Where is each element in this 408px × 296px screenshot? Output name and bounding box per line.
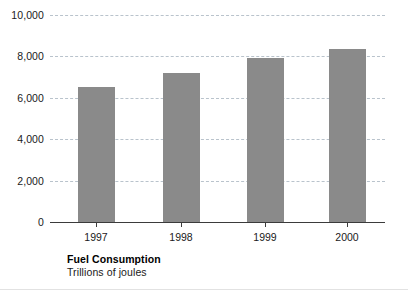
chart-title: Fuel Consumption [67, 253, 367, 266]
ytick-label-6000: 6,000 [0, 93, 44, 104]
xtick-1998 [181, 222, 182, 227]
xtick-label-1999: 1999 [235, 231, 295, 243]
bar-1998 [163, 73, 200, 222]
x-axis-line [50, 222, 385, 223]
xtick-label-1997: 1997 [66, 231, 126, 243]
bar-chart-figure: 10,000 8,000 6,000 4,000 2,000 0 1997 19… [0, 0, 408, 296]
bottom-divider [0, 289, 408, 290]
bars-layer [50, 10, 385, 222]
xtick-label-2000: 2000 [317, 231, 377, 243]
bar-1997 [78, 87, 115, 222]
bar-2000 [329, 49, 366, 222]
xtick-2000 [347, 222, 348, 227]
chart-caption: Fuel Consumption Trillions of joules [67, 253, 367, 279]
ytick-label-2000: 2,000 [0, 176, 44, 187]
xtick-1999 [265, 222, 266, 227]
ytick-label-4000: 4,000 [0, 134, 44, 145]
ytick-label-8000: 8,000 [0, 51, 44, 62]
bar-1999 [247, 58, 284, 222]
ytick-label-10000: 10,000 [0, 10, 44, 21]
ytick-label-0: 0 [0, 217, 44, 228]
chart-subtitle: Trillions of joules [67, 266, 367, 279]
xtick-label-1998: 1998 [151, 231, 211, 243]
xtick-1997 [96, 222, 97, 227]
